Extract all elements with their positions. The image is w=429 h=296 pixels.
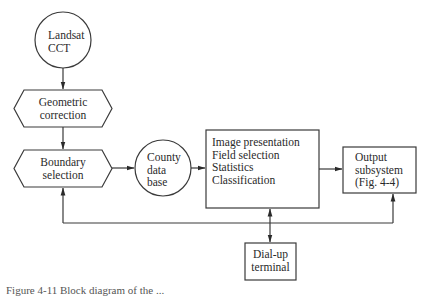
label-line: (Fig. 4-4) [355,176,403,189]
label-line: correction [24,109,102,122]
label-line: Geometric [24,96,102,109]
label-county-data-base: County data base [147,151,181,189]
label-line: Dial-up [245,248,296,261]
label-line: Output [355,151,403,164]
label-geometric-correction: Geometric correction [24,96,102,121]
label-line: CCT [48,42,84,55]
label-line: terminal [245,261,296,274]
label-landsat-cct: Landsat CCT [48,29,84,54]
label-line: selection [24,169,102,182]
label-line: base [147,176,181,189]
label-line: County [147,151,181,164]
label-line: Field selection [212,149,300,162]
label-processing: Image presentation Field selection Stati… [212,136,300,186]
label-boundary-selection: Boundary selection [24,156,102,181]
label-output-subsystem: Output subsystem (Fig. 4-4) [355,151,403,189]
label-line: Classification [212,174,300,187]
label-line: Landsat [48,29,84,42]
figure-caption: Figure 4-11 Block diagram of the ... [6,284,164,296]
label-line: data [147,164,181,177]
label-line: Image presentation [212,136,300,149]
label-dialup-terminal: Dial-up terminal [245,248,296,273]
label-line: subsystem [355,164,403,177]
label-line: Statistics [212,161,300,174]
label-line: Boundary [24,156,102,169]
